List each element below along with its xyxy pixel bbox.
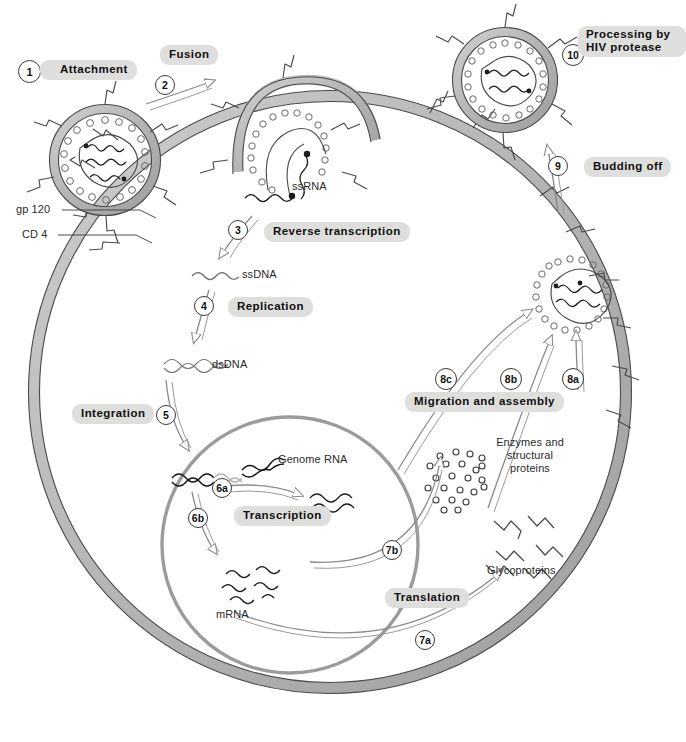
enzyme-protein-particles: [425, 449, 487, 513]
step-number-2[interactable]: 2: [155, 75, 175, 95]
step-number-5[interactable]: 5: [156, 405, 176, 425]
label-reverse-transcription: Reverse transcription: [264, 222, 410, 242]
step-number-8b[interactable]: 8b: [500, 368, 522, 390]
label-integration: Integration: [72, 404, 154, 424]
enzymes-line-1: Enzymes and: [496, 436, 564, 448]
step-number-7a[interactable]: 7a: [415, 630, 435, 650]
label-ssrna: ssRNA: [292, 180, 327, 192]
enzymes-line-2: structural: [507, 449, 553, 461]
label-migration-assembly: Migration and assembly: [405, 392, 564, 412]
virion-fusing: [200, 55, 380, 196]
label-genome-rna: Genome RNA: [278, 453, 347, 465]
label-ssdna: ssDNA: [242, 268, 277, 280]
mrna-molecules: [222, 567, 280, 604]
virion-mature: [427, 4, 577, 160]
arrow-step-6a: [226, 485, 298, 494]
processing-line-2: HIV protease: [586, 41, 662, 53]
step-number-9[interactable]: 9: [548, 156, 568, 176]
step-number-4[interactable]: 4: [194, 296, 214, 316]
label-transcription: Transcription: [234, 506, 331, 526]
processing-line-1: Processing by: [586, 28, 670, 40]
label-translation: Translation: [385, 588, 469, 608]
label-dsdna: dsDNA: [212, 358, 247, 370]
ssdna-molecule: [192, 273, 239, 280]
step-number-1[interactable]: 1: [18, 60, 41, 83]
label-enzymes-structural-proteins: Enzymes and structural proteins: [482, 436, 578, 475]
enzymes-line-3: proteins: [510, 462, 550, 474]
label-processing-hiv-protease: Processing by HIV protease: [578, 26, 686, 57]
step-number-7b[interactable]: 7b: [382, 540, 402, 560]
label-attachment: Attachment: [40, 60, 137, 80]
virion-attaching: [27, 81, 178, 243]
step-number-6a[interactable]: 6a: [212, 478, 232, 498]
step-number-3[interactable]: 3: [228, 220, 248, 240]
label-mrna: mRNA: [216, 608, 249, 620]
step-number-8c[interactable]: 8c: [435, 368, 457, 390]
label-cd4: CD 4: [22, 228, 47, 240]
label-glycoproteins: Glycoproteins: [487, 564, 556, 576]
step-number-6b[interactable]: 6b: [188, 508, 208, 528]
ssrna-molecule: [245, 151, 310, 201]
step-number-8a[interactable]: 8a: [562, 368, 584, 390]
arrow-step-8b: [488, 340, 550, 508]
label-gp120: gp 120: [16, 203, 50, 215]
label-budding-off: Budding off: [584, 157, 671, 177]
label-fusion: Fusion: [160, 45, 218, 65]
label-replication: Replication: [228, 297, 313, 317]
